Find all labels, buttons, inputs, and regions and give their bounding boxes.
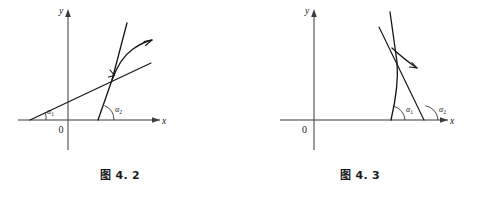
- alpha-2-label: α2: [115, 105, 122, 115]
- figure-board: x y 0 α1 α2 图 4. 2: [0, 0, 480, 198]
- figure-4-2-plot: x y 0 α1 α2: [0, 0, 240, 168]
- y-axis-arrowhead: [65, 9, 71, 17]
- y-axis-label: y: [304, 6, 310, 16]
- alpha-2-arc: [105, 106, 115, 121]
- origin-label: 0: [302, 124, 307, 135]
- curve-path: [98, 40, 152, 120]
- x-axis-label: x: [449, 116, 455, 126]
- alpha-1-arc: [45, 113, 46, 121]
- figure-panel-4-2: x y 0 α1 α2 图 4. 2: [0, 0, 240, 198]
- alpha-2-arc: [426, 106, 439, 120]
- x-axis-arrowhead: [152, 117, 160, 123]
- curve-upper-tail: [112, 23, 127, 80]
- figure-4-3-plot: x y 0 α1 α2: [240, 0, 480, 168]
- figure-4-2-caption: 图 4. 2: [0, 166, 240, 182]
- figure-panel-4-3: x y 0 α1 α2 图 4. 3: [240, 0, 480, 198]
- figure-4-3-caption: 图 4. 3: [240, 166, 480, 182]
- secant-line: [379, 27, 424, 120]
- curve-lower-tail: [392, 48, 417, 68]
- alpha-1-label: α1: [406, 105, 413, 115]
- x-axis-label: x: [161, 116, 167, 126]
- alpha-2-label: α2: [439, 105, 446, 115]
- x-axis-arrowhead: [440, 117, 448, 123]
- alpha-1-arc: [394, 106, 406, 120]
- curve-path: [390, 12, 397, 120]
- origin-label: 0: [59, 124, 64, 135]
- y-axis-arrowhead: [311, 9, 317, 17]
- y-axis-label: y: [58, 6, 64, 16]
